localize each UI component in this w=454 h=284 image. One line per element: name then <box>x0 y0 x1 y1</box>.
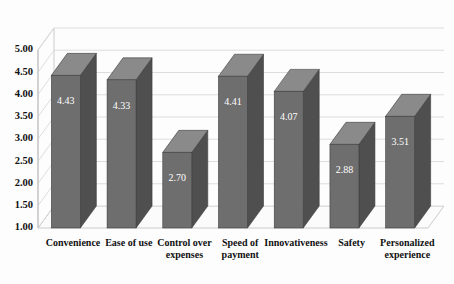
bar-front-face <box>163 152 192 228</box>
y-axis-tick-label: 3.50 <box>15 110 33 121</box>
y-axis-tick-label: 3.00 <box>15 132 33 143</box>
x-axis-label: Safety <box>338 237 365 248</box>
x-axis-label: Ease of use <box>105 237 153 248</box>
bar-value-label: 4.33 <box>113 100 131 111</box>
y-axis-tick-label: 4.00 <box>15 88 33 99</box>
y-axis-ticks: 1.001.502.002.503.003.504.004.505.00 <box>15 43 33 232</box>
x-axis-label: payment <box>222 249 260 260</box>
bar-group[interactable]: 2.70 <box>163 130 208 228</box>
bar-side-face <box>80 53 96 228</box>
bar-group[interactable]: 4.43 <box>51 53 96 228</box>
x-axis-label: Personalized <box>380 237 435 248</box>
x-axis-label: Control over <box>157 237 212 248</box>
x-axis-label: experience <box>385 249 431 260</box>
chart-canvas: 1.001.502.002.503.003.504.004.505.004.43… <box>0 0 454 284</box>
y-axis-tick-label: 1.00 <box>15 221 33 232</box>
x-axis-label: Speed of <box>222 237 259 248</box>
bar-value-label: 3.51 <box>391 136 409 147</box>
y-axis-tick-label: 2.50 <box>15 155 33 166</box>
bar-group[interactable]: 4.33 <box>107 58 152 228</box>
bar-group[interactable]: 2.88 <box>330 122 375 228</box>
x-axis-label: Innovativeness <box>264 237 327 248</box>
bar-value-label: 4.43 <box>57 95 75 106</box>
bar-value-label: 2.70 <box>169 172 187 183</box>
x-axis-label: expenses <box>166 249 203 260</box>
bar-front-face <box>386 116 415 228</box>
bar-group[interactable]: 4.41 <box>219 54 264 228</box>
bar-group[interactable]: 3.51 <box>386 94 431 228</box>
x-axis-label: Convenience <box>46 237 101 248</box>
bar-value-label: 2.88 <box>336 164 354 175</box>
bar-chart-3d: 1.001.502.002.503.003.504.004.505.004.43… <box>0 0 454 284</box>
bar-value-label: 4.07 <box>280 111 298 122</box>
bar-side-face <box>136 58 152 228</box>
y-axis-tick-label: 5.00 <box>15 43 33 54</box>
bar-side-face <box>303 69 319 228</box>
bar-side-face <box>247 54 263 228</box>
bar-side-face <box>415 94 431 228</box>
y-axis-tick-label: 2.00 <box>15 177 33 188</box>
bar-group[interactable]: 4.07 <box>274 69 319 228</box>
bar-front-face <box>330 144 359 228</box>
y-axis-tick-label: 4.50 <box>15 66 33 77</box>
x-axis-labels: ConvenienceEase of useControl overexpens… <box>46 237 435 260</box>
y-axis-tick-label: 1.50 <box>15 199 33 210</box>
bar-value-label: 4.41 <box>224 96 242 107</box>
